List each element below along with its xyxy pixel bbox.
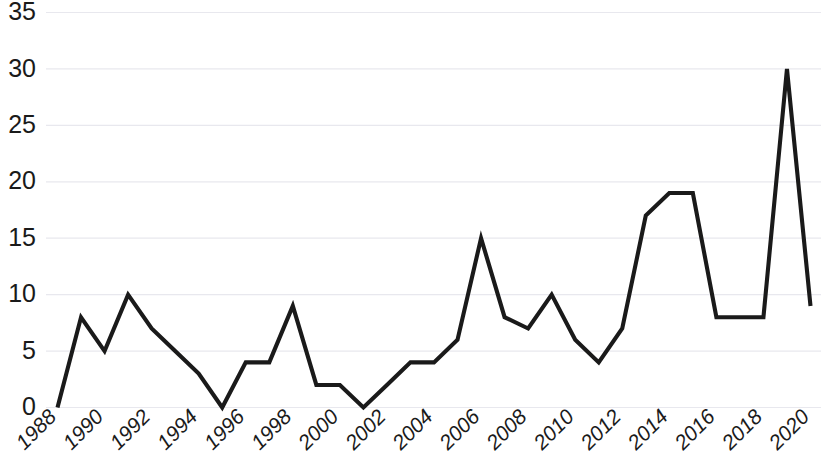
line-chart: 05101520253035 1988199019921994199619982… bbox=[0, 0, 821, 468]
y-tick-label: 10 bbox=[8, 279, 36, 307]
y-tick-label: 15 bbox=[8, 223, 36, 251]
y-tick-label: 5 bbox=[22, 336, 36, 364]
chart-background bbox=[0, 0, 821, 468]
y-tick-label: 20 bbox=[8, 166, 36, 194]
chart-container: 05101520253035 1988199019921994199619982… bbox=[0, 0, 821, 468]
y-tick-label: 30 bbox=[8, 54, 36, 82]
y-tick-label: 35 bbox=[8, 0, 36, 25]
y-tick-label: 25 bbox=[8, 110, 36, 138]
